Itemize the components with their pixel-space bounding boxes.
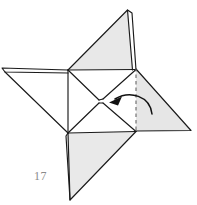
top-flap-shape <box>68 10 136 70</box>
step-number-label: 17 <box>34 169 47 183</box>
origami-diagram-svg <box>0 0 197 205</box>
origami-figure: 17 <box>0 0 197 205</box>
square-top-edge <box>68 70 136 71</box>
